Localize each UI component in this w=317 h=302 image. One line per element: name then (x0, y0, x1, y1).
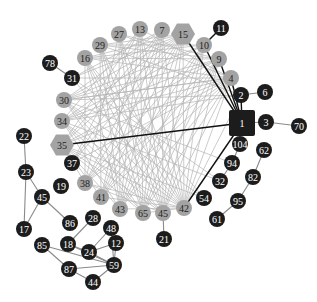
node-85[interactable]: 85 (34, 237, 50, 253)
node-70[interactable]: 70 (291, 118, 307, 134)
node-2[interactable]: 2 (233, 87, 249, 103)
edge-23-17 (24, 172, 26, 229)
node-29[interactable]: 29 (92, 37, 108, 53)
edge-32-34 (62, 121, 220, 181)
node-7[interactable]: 7 (154, 22, 170, 38)
edge-2-34 (62, 95, 241, 121)
node-label: 85 (37, 240, 47, 251)
node-label: 31 (67, 73, 77, 84)
node-43[interactable]: 43 (112, 201, 128, 217)
node-label: 61 (212, 214, 222, 225)
node-label: 94 (227, 158, 237, 169)
node-12[interactable]: 12 (108, 235, 124, 251)
node-17[interactable]: 17 (16, 221, 32, 237)
node-label: 45 (37, 192, 47, 203)
node-label: 22 (19, 131, 29, 142)
node-21[interactable]: 21 (156, 231, 172, 247)
node-label: 43 (115, 204, 125, 215)
graph-canvas: 1234679101112131516171819212223242728293… (0, 0, 317, 302)
node-38[interactable]: 38 (77, 175, 93, 191)
node-1[interactable]: 1 (229, 110, 255, 136)
node-94[interactable]: 94 (224, 155, 240, 171)
node-label: 11 (216, 23, 226, 34)
node-label: 104 (233, 139, 248, 150)
node-label: 10 (199, 40, 209, 51)
node-label: 78 (45, 58, 55, 69)
node-59[interactable]: 59 (106, 257, 122, 273)
node-label: 42 (179, 203, 189, 214)
node-label: 62 (259, 145, 269, 156)
node-6[interactable]: 6 (257, 84, 273, 100)
node-54[interactable]: 54 (196, 190, 212, 206)
node-label: 95 (233, 196, 243, 207)
node-label: 9 (217, 54, 222, 65)
node-37[interactable]: 37 (64, 155, 80, 171)
node-23[interactable]: 23 (18, 164, 34, 180)
node-3[interactable]: 3 (258, 114, 274, 130)
node-19[interactable]: 19 (53, 178, 69, 194)
node-45[interactable]: 45 (155, 205, 171, 221)
node-32[interactable]: 32 (212, 173, 228, 189)
node-label: 30 (59, 95, 69, 106)
node-label: 70 (294, 121, 304, 132)
node-44[interactable]: 44 (85, 274, 101, 290)
node-61[interactable]: 61 (209, 211, 225, 227)
node-22[interactable]: 22 (16, 128, 32, 144)
node-82[interactable]: 82 (245, 169, 261, 185)
node-label: 38 (80, 178, 90, 189)
edge-37-4 (72, 78, 231, 163)
node-16[interactable]: 16 (77, 50, 93, 66)
node-label: 54 (199, 193, 209, 204)
node-label: 2 (239, 90, 244, 101)
node-label: 48 (106, 223, 116, 234)
node-label: 1 (240, 118, 245, 129)
node-label: 7 (160, 25, 165, 36)
node-45[interactable]: 45 (34, 189, 50, 205)
node-label: 59 (109, 260, 119, 271)
node-label: 82 (248, 172, 258, 183)
node-27[interactable]: 27 (111, 26, 127, 42)
node-label: 28 (88, 213, 98, 224)
node-87[interactable]: 87 (61, 261, 77, 277)
node-104[interactable]: 104 (232, 136, 248, 152)
node-label: 27 (114, 29, 124, 40)
node-9[interactable]: 9 (211, 51, 227, 67)
node-label: 86 (65, 218, 75, 229)
node-78[interactable]: 78 (42, 55, 58, 71)
node-31[interactable]: 31 (64, 70, 80, 86)
node-62[interactable]: 62 (256, 142, 272, 158)
node-label: 65 (138, 208, 148, 219)
node-label: 13 (135, 24, 145, 35)
node-41[interactable]: 41 (93, 189, 109, 205)
edge-65-9 (143, 59, 219, 213)
node-28[interactable]: 28 (85, 210, 101, 226)
node-24[interactable]: 24 (81, 244, 97, 260)
edge-29-65 (100, 45, 143, 213)
node-42[interactable]: 42 (176, 200, 192, 216)
node-48[interactable]: 48 (103, 220, 119, 236)
node-label: 41 (96, 192, 106, 203)
node-95[interactable]: 95 (230, 193, 246, 209)
node-label: 19 (56, 181, 66, 192)
node-13[interactable]: 13 (132, 21, 148, 37)
node-label: 21 (159, 234, 169, 245)
node-4[interactable]: 4 (223, 70, 239, 86)
node-30[interactable]: 30 (56, 92, 72, 108)
node-label: 12 (111, 238, 121, 249)
node-label: 16 (80, 53, 90, 64)
node-label: 87 (64, 264, 74, 275)
node-86[interactable]: 86 (62, 215, 78, 231)
node-label: 35 (57, 140, 67, 151)
node-11[interactable]: 11 (213, 20, 229, 36)
node-label: 6 (263, 87, 268, 98)
node-label: 29 (95, 40, 105, 51)
node-65[interactable]: 65 (135, 205, 151, 221)
node-label: 44 (88, 277, 98, 288)
network-diagram: 1234679101112131516171819212223242728293… (0, 0, 317, 302)
node-34[interactable]: 34 (54, 113, 70, 129)
node-label: 37 (67, 158, 77, 169)
node-18[interactable]: 18 (60, 236, 76, 252)
node-10[interactable]: 10 (196, 37, 212, 53)
node-label: 15 (178, 29, 188, 40)
node-label: 4 (229, 73, 234, 84)
